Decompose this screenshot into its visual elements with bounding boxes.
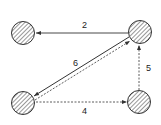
node-top-left: [12, 22, 35, 45]
node-top-right: [129, 21, 152, 44]
edge-label-6: 6: [73, 58, 78, 68]
graph-diagram: 2 6 5 4: [0, 0, 161, 125]
node-bottom-right: [128, 91, 151, 114]
node-bottom-left: [12, 92, 35, 115]
edge-label-2: 2: [82, 20, 87, 30]
edge-label-4: 4: [82, 106, 87, 116]
edge-6-dashed: [35, 41, 130, 100]
edge-6-solid: [34, 37, 129, 96]
edge-label-5: 5: [146, 63, 151, 73]
